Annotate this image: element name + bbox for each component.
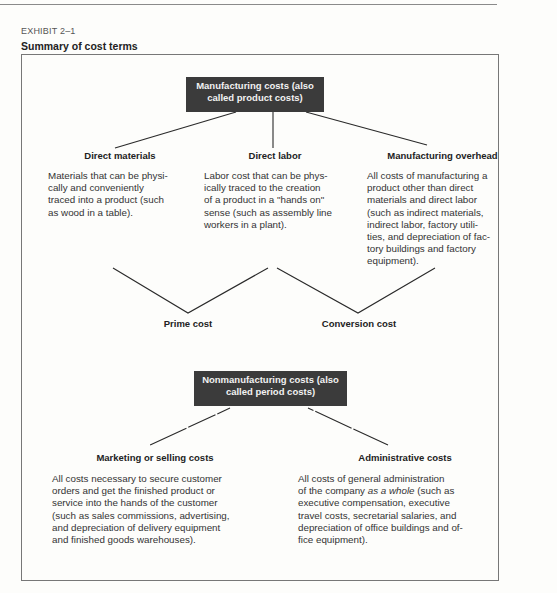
desc-line: service into the hands of the customer [52,497,252,509]
desc-line: workers in a plant). [204,219,354,231]
desc-line: All costs of manufacturing a [367,170,527,182]
desc-line: Materials that can be physi- [48,170,198,182]
connector-manufacturing-overhead [306,112,427,145]
nonmanufacturing-costs-box: Nonmanufacturing costs (also called peri… [194,371,347,406]
desc-line: as wood in a table). [48,207,198,219]
desc-line: tory buildings and factory [367,243,527,255]
manufacturing-overhead-heading: Manufacturing overhead [360,150,525,161]
desc-line: cally and conveniently [48,182,198,194]
desc-line: materials and direct labor [367,194,527,206]
desc-line: traced into a product (such [48,194,198,206]
desc-line: and depreciation of delivery equipment [52,522,252,534]
desc-line: All costs of general administration [298,473,498,485]
desc-line: equipment). [367,255,527,267]
desc-line: Labor cost that can be phys- [204,170,354,182]
desc-line: ically traced to the creation [204,182,354,194]
prime-cost-label: Prime cost [138,318,238,329]
desc-line: sense (such as assembly line [204,207,354,219]
desc-line: travel costs, secretarial salaries, and [298,510,498,522]
manufacturing-box-line1: Manufacturing costs (also [192,80,318,92]
direct-labor-description: Labor cost that can be phys- ically trac… [204,170,354,231]
direct-materials-description: Materials that can be physi- cally and c… [48,170,198,219]
connector-marketing [150,408,230,445]
desc-line: product other than direct [367,182,527,194]
desc-line: and finished goods warehouses). [52,534,252,546]
conversion-cost-bracket [277,268,435,313]
desc-line: (such as indirect materials, [367,207,527,219]
marketing-selling-heading: Marketing or selling costs [70,452,240,463]
desc-line: of the company as a whole (such as [298,485,498,497]
prime-cost-bracket [113,268,268,313]
conversion-cost-label: Conversion cost [300,318,418,329]
connector-administrative [308,408,388,445]
desc-text: of the company [298,485,368,496]
desc-line: of a product in a "hands on" [204,194,354,206]
desc-line: indirect labor, factory utili- [367,219,527,231]
desc-line: depreciation of office buildings and of- [298,522,498,534]
nonmanufacturing-box-line1: Nonmanufacturing costs (also [200,374,341,386]
desc-text: (such as [415,485,455,496]
desc-line: executive compensation, executive [298,497,498,509]
manufacturing-box-line2: called product costs) [192,92,318,104]
desc-line: fice equipment). [298,534,498,546]
direct-labor-heading: Direct labor [200,150,350,161]
desc-line: All costs necessary to secure customer [52,473,252,485]
manufacturing-overhead-description: All costs of manufacturing a product oth… [367,170,527,268]
desc-line: orders and get the finished product or [52,485,252,497]
manufacturing-costs-box: Manufacturing costs (also called product… [186,77,324,112]
nonmanufacturing-box-line2: called period costs) [200,386,341,398]
direct-materials-heading: Direct materials [40,150,200,161]
desc-line: (such as sales commissions, advertising, [52,510,252,522]
desc-emphasis: as a whole [368,485,415,496]
administrative-description: All costs of general administration of t… [298,473,498,546]
marketing-selling-description: All costs necessary to secure customer o… [52,473,252,546]
connector-direct-materials [115,112,236,148]
desc-line: ties, and depreciation of fac- [367,231,527,243]
administrative-heading: Administrative costs [330,452,480,463]
